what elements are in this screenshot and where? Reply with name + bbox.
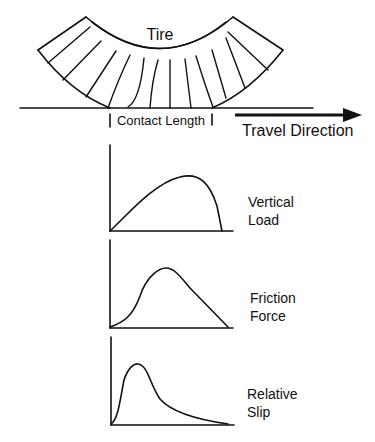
friction-force-label-1: Friction [250, 290, 296, 306]
vertical-load-label-2: Load [248, 212, 279, 228]
contact-length-label: Contact Length [117, 113, 205, 128]
travel-direction-label: Travel Direction [242, 122, 353, 139]
tire-section: Tire [38, 17, 283, 108]
tire-label: Tire [147, 26, 174, 43]
tire-outer-left [38, 50, 110, 108]
travel-direction-arrow-icon [235, 108, 362, 122]
relative-slip-label-1: Relative [247, 386, 298, 402]
relative-slip-label-2: Slip [247, 404, 271, 420]
tire-contact-diagram: Tire Contact Length Travel Direction Ver… [0, 0, 375, 442]
relative-slip-curve [111, 364, 228, 424]
vertical-load-chart: Vertical Load [110, 145, 294, 231]
friction-force-label-2: Force [250, 308, 286, 324]
vertical-load-curve [110, 176, 222, 231]
tire-sidewall-left [38, 17, 86, 50]
relative-slip-chart: Relative Slip [111, 337, 298, 425]
tire-outer-right [212, 50, 283, 108]
friction-force-chart: Friction Force [110, 240, 296, 328]
vertical-load-label-1: Vertical [248, 194, 294, 210]
tire-sidewall-right [233, 17, 283, 50]
friction-force-curve [110, 268, 228, 327]
